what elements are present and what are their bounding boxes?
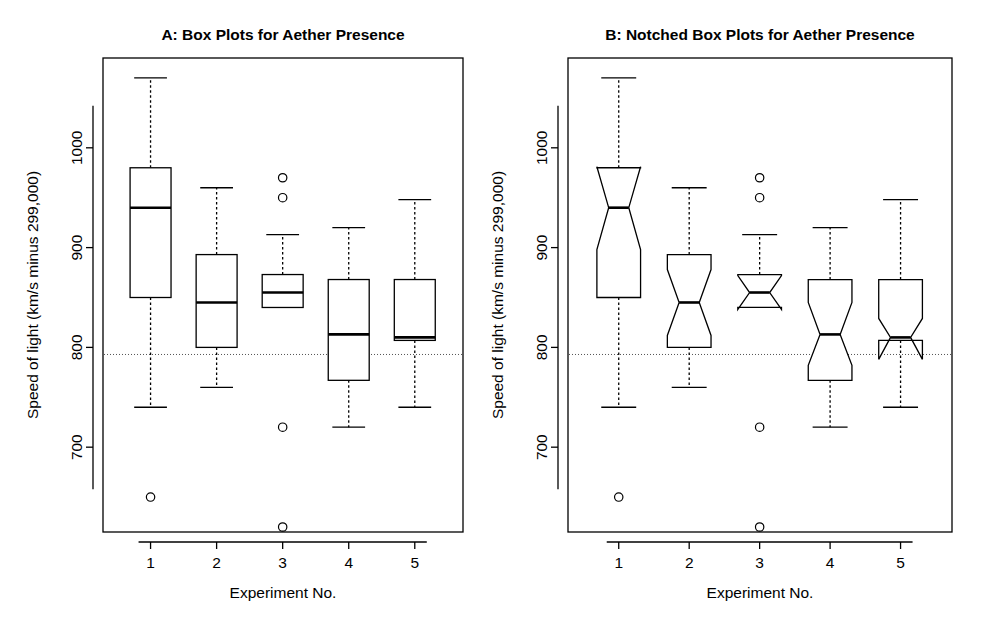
x-tick-label-A-1: 1: [146, 554, 155, 571]
x-tick-label-B-3: 3: [755, 554, 764, 571]
box-A-3: [262, 174, 303, 532]
outlier-A-3-3: [278, 523, 286, 531]
x-axis-label-A: Experiment No.: [230, 584, 337, 601]
x-tick-label-A-4: 4: [344, 554, 353, 571]
outlier-B-3-2: [755, 423, 763, 431]
y-tick-label-B-700: 700: [533, 434, 550, 460]
box-A-5: [394, 200, 435, 408]
box-A-2: [196, 188, 237, 388]
box-body-A-4: [328, 280, 369, 381]
box-body-B-4: [808, 280, 852, 381]
outlier-B-3-0: [755, 174, 763, 182]
y-axis-label-B: Speed of light (km/s minus 299,000): [489, 171, 506, 419]
y-axis-label-A: Speed of light (km/s minus 299,000): [24, 171, 41, 419]
y-tick-label-B-800: 800: [533, 334, 550, 360]
panel-title-B: B: Notched Box Plots for Aether Presence: [605, 26, 915, 43]
outlier-B-3-1: [755, 194, 763, 202]
box-B-3: [738, 174, 782, 532]
box-body-B-1: [597, 167, 641, 298]
x-tick-label-B-1: 1: [614, 554, 623, 571]
x-tick-label-B-4: 4: [826, 554, 835, 571]
box-body-B-2: [667, 255, 711, 348]
box-B-5: [879, 200, 923, 408]
x-tick-label-B-5: 5: [896, 554, 905, 571]
outlier-A-3-2: [278, 423, 286, 431]
x-axis-label-B: Experiment No.: [707, 584, 814, 601]
boxplot-figure: A: Box Plots for Aether Presence70080090…: [0, 0, 990, 632]
box-body-A-3: [262, 275, 303, 308]
y-tick-label-B-900: 900: [533, 234, 550, 260]
box-B-1: [597, 78, 641, 501]
x-tick-label-A-5: 5: [410, 554, 419, 571]
outlier-A-3-1: [278, 194, 286, 202]
box-B-2: [667, 188, 711, 388]
y-tick-label-A-900: 900: [68, 234, 85, 260]
y-tick-label-B-1000: 1000: [533, 130, 550, 165]
outlier-B-1-0: [615, 493, 623, 501]
box-B-4: [808, 228, 852, 428]
panel-title-A: A: Box Plots for Aether Presence: [161, 26, 405, 43]
y-tick-label-A-800: 800: [68, 334, 85, 360]
outlier-B-3-3: [755, 523, 763, 531]
box-body-A-5: [394, 280, 435, 341]
box-body-A-1: [130, 168, 171, 298]
figure-canvas: A: Box Plots for Aether Presence70080090…: [0, 0, 990, 632]
box-A-1: [130, 78, 171, 501]
y-tick-label-A-1000: 1000: [68, 130, 85, 165]
box-A-4: [328, 228, 369, 428]
outlier-A-1-0: [146, 493, 154, 501]
x-tick-label-A-2: 2: [212, 554, 221, 571]
x-tick-label-B-2: 2: [685, 554, 694, 571]
panel-A: A: Box Plots for Aether Presence70080090…: [24, 26, 463, 601]
box-body-A-2: [196, 255, 237, 348]
x-tick-label-A-3: 3: [278, 554, 287, 571]
outlier-A-3-0: [278, 174, 286, 182]
y-tick-label-A-700: 700: [68, 434, 85, 460]
panel-B: B: Notched Box Plots for Aether Presence…: [489, 26, 952, 601]
